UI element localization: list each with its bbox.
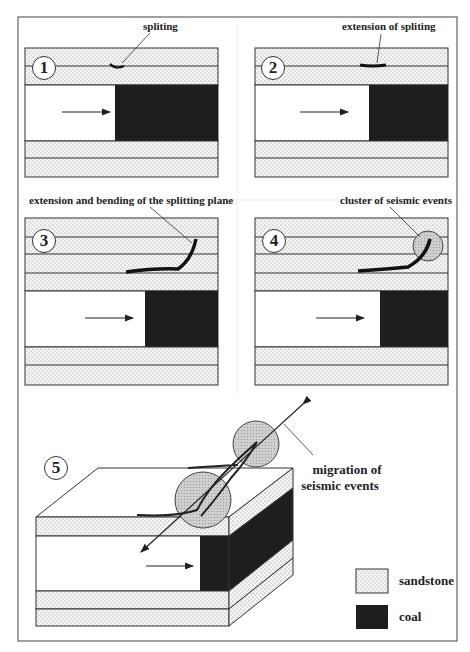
label-migration-line2: seismic events <box>300 478 380 494</box>
label-extension-bending: extension and bending of the splitting p… <box>29 194 233 206</box>
panel-1-number: 1 <box>32 56 56 80</box>
panel-4-number: 4 <box>262 229 286 253</box>
panel-2-number: 2 <box>261 56 285 80</box>
legend-sandstone-label: sandstone <box>399 573 454 589</box>
label-extension-of-spliting: extension of spliting <box>342 20 436 32</box>
split-crack <box>360 65 386 66</box>
label-migration-line1: migration of <box>307 462 387 478</box>
label-spliting: spliting <box>143 20 178 32</box>
panel-5-number: 5 <box>44 456 68 480</box>
figure-canvas <box>0 0 470 652</box>
legend-coal-swatch <box>356 605 388 629</box>
panel-2 <box>255 34 448 177</box>
legend-coal-label: coal <box>399 609 421 625</box>
label-cluster: cluster of seismic events <box>340 194 452 206</box>
panel-1 <box>25 33 218 177</box>
legend-sandstone-swatch <box>356 569 388 593</box>
panel-3-number: 3 <box>32 229 56 253</box>
panel-5 <box>36 404 313 626</box>
